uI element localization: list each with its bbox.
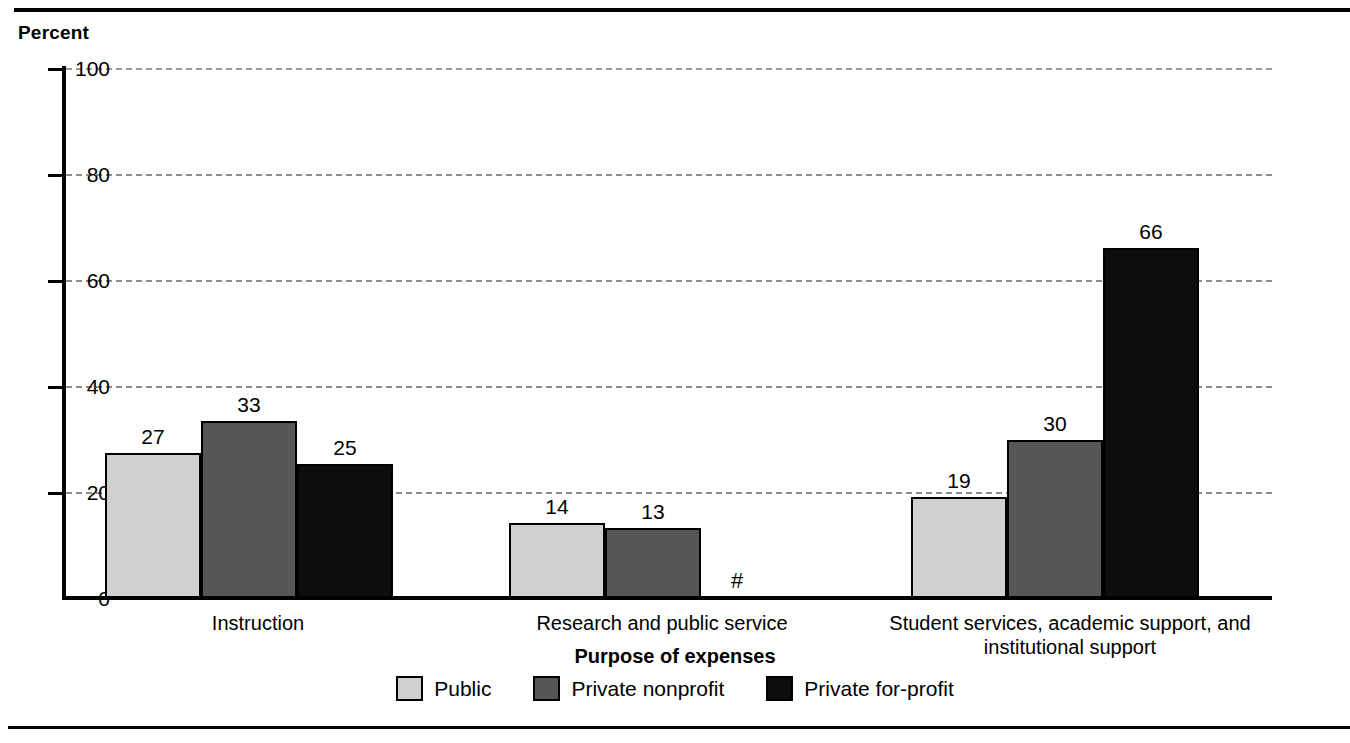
bar-value-research-public: 14 bbox=[527, 496, 587, 517]
bar-research-nonprofit[interactable] bbox=[605, 528, 701, 598]
legend-item-private-nonprofit[interactable]: Private nonprofit bbox=[533, 676, 724, 701]
top-divider-rule bbox=[14, 8, 1350, 12]
bar-value-student-services-public: 19 bbox=[929, 470, 989, 491]
legend-swatch-icon-public bbox=[396, 676, 423, 701]
bar-student-services-public[interactable] bbox=[911, 497, 1007, 598]
gridline-60 bbox=[66, 280, 1272, 282]
gridline-80 bbox=[66, 174, 1272, 176]
legend-swatch-icon-private-nonprofit bbox=[533, 676, 560, 701]
legend-item-private-for-profit[interactable]: Private for-profit bbox=[766, 676, 953, 701]
x-axis-line bbox=[62, 596, 1272, 600]
category-label-student-services-line1: Student services, academic support, and bbox=[868, 612, 1272, 636]
ytick-label-60: 60 bbox=[66, 270, 110, 291]
plot-area: 100 80 60 40 20 0 27 33 25 14 13 # 19 30… bbox=[62, 66, 1272, 600]
y-axis-title: Percent bbox=[18, 22, 89, 44]
gridline-40 bbox=[66, 386, 1272, 388]
legend-swatch-icon-private-for-profit bbox=[766, 676, 793, 701]
bar-instruction-public[interactable] bbox=[105, 453, 201, 598]
bar-value-instruction-forprofit: 25 bbox=[315, 437, 375, 458]
bar-student-services-forprofit[interactable] bbox=[1103, 248, 1199, 598]
legend-label-private-nonprofit: Private nonprofit bbox=[571, 678, 724, 699]
legend-item-public[interactable]: Public bbox=[396, 676, 491, 701]
bar-instruction-forprofit[interactable] bbox=[297, 464, 393, 598]
y-axis-line bbox=[62, 66, 66, 600]
ytick-label-40: 40 bbox=[66, 376, 110, 397]
chart-page: Percent 100 80 60 40 20 0 27 33 25 14 13 bbox=[0, 0, 1350, 743]
bottom-divider-rule bbox=[8, 726, 1350, 729]
ytick-label-100: 100 bbox=[66, 58, 110, 79]
bar-value-student-services-nonprofit: 30 bbox=[1025, 413, 1085, 434]
bar-value-instruction-public: 27 bbox=[123, 426, 183, 447]
legend-label-private-for-profit: Private for-profit bbox=[804, 678, 953, 699]
ytick-label-80: 80 bbox=[66, 164, 110, 185]
bar-research-public[interactable] bbox=[509, 523, 605, 598]
x-axis-title: Purpose of expenses bbox=[0, 645, 1350, 668]
category-label-instruction: Instruction bbox=[62, 612, 454, 636]
legend-label-public: Public bbox=[434, 678, 491, 699]
category-label-research: Research and public service bbox=[466, 612, 858, 636]
ytick-label-20: 20 bbox=[66, 482, 110, 503]
bar-student-services-nonprofit[interactable] bbox=[1007, 440, 1103, 598]
bar-value-research-nonprofit: 13 bbox=[623, 501, 683, 522]
bar-instruction-nonprofit[interactable] bbox=[201, 421, 297, 598]
bar-value-student-services-forprofit: 66 bbox=[1121, 221, 1181, 242]
bar-value-research-forprofit: # bbox=[717, 570, 757, 592]
gridline-100 bbox=[66, 68, 1272, 70]
chart-legend: Public Private nonprofit Private for-pro… bbox=[0, 676, 1350, 701]
bar-value-instruction-nonprofit: 33 bbox=[219, 394, 279, 415]
